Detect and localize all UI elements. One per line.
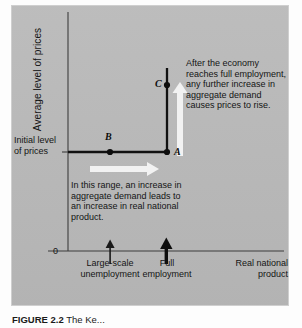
annotation-horizontal-range: In this range, an increase in aggregate … bbox=[71, 180, 183, 222]
data-point-b bbox=[107, 149, 113, 155]
data-point-c bbox=[164, 82, 170, 88]
figure-caption-text: The Ke... bbox=[66, 314, 105, 325]
x-axis-title: Real national product bbox=[208, 258, 288, 279]
figure-caption: FIGURE 2.2 The Ke... bbox=[12, 314, 292, 328]
data-point-label-c: C bbox=[155, 78, 162, 89]
y-axis-title: Average level of prices bbox=[32, 10, 43, 150]
white-right-arrow bbox=[90, 162, 159, 176]
data-point-label-b: B bbox=[105, 131, 112, 142]
annotation-vertical-range: After the economy reaches full employmen… bbox=[186, 58, 290, 111]
x-tick-label-full-employment: Full employment bbox=[135, 258, 199, 279]
y-tick-label-initial-price: Initial level of prices bbox=[14, 135, 64, 156]
origin-label: 0 bbox=[53, 246, 58, 256]
data-point-label-a: A bbox=[174, 146, 181, 157]
figure-container: Average level of prices Initial level of… bbox=[0, 0, 302, 328]
data-point-a bbox=[164, 149, 170, 155]
figure-caption-label: FIGURE 2.2 bbox=[12, 314, 64, 325]
